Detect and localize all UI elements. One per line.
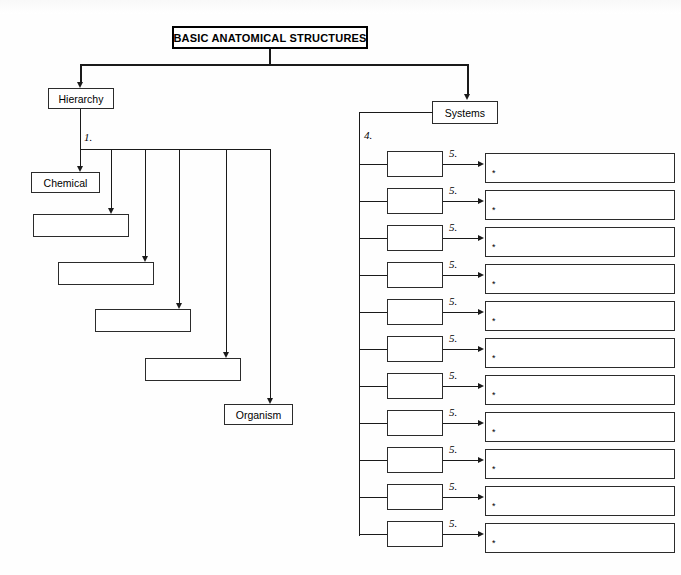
step-label-4: 4. xyxy=(364,129,372,141)
hierarchy-item-5[interactable] xyxy=(145,358,241,381)
hierarchy-connector-3 xyxy=(145,149,146,257)
systems-row-stub-5 xyxy=(359,312,387,313)
system-box-8[interactable] xyxy=(387,410,443,436)
hierarchy-stem xyxy=(80,109,81,149)
organ-box-6[interactable]: * xyxy=(485,338,675,368)
organ-bullet-6: * xyxy=(492,354,496,363)
organ-bullet-7: * xyxy=(492,391,496,400)
system-box-5[interactable] xyxy=(387,299,443,325)
systems-drop-line xyxy=(467,64,469,95)
organ-arrowhead-10 xyxy=(478,494,484,500)
hierarchy-item-3[interactable] xyxy=(58,262,154,285)
organ-connector-6 xyxy=(443,349,479,350)
systems-row-stub-3 xyxy=(359,238,387,239)
system-box-10[interactable] xyxy=(387,484,443,510)
step-label-5-row-9: 5. xyxy=(449,443,457,455)
organ-box-8[interactable]: * xyxy=(485,412,675,442)
hierarchy-item-4[interactable] xyxy=(95,309,191,332)
hierarchy-connector-6 xyxy=(270,149,271,399)
organ-arrowhead-8 xyxy=(478,420,484,426)
systems-spine-top xyxy=(359,112,433,113)
step-label-1: 1. xyxy=(84,131,92,143)
hierarchy-item-6: Organism xyxy=(224,404,293,425)
organ-bullet-3: * xyxy=(492,243,496,252)
system-box-7[interactable] xyxy=(387,373,443,399)
systems-label: Systems xyxy=(445,107,485,119)
organ-box-5[interactable]: * xyxy=(485,301,675,331)
hierarchy-connector-2 xyxy=(111,149,112,209)
organ-connector-3 xyxy=(443,238,479,239)
system-box-9[interactable] xyxy=(387,447,443,473)
systems-row-stub-11 xyxy=(359,534,387,535)
organ-box-2[interactable]: * xyxy=(485,190,675,220)
organ-connector-1 xyxy=(443,164,479,165)
organ-connector-9 xyxy=(443,460,479,461)
step-label-5-row-4: 5. xyxy=(449,258,457,270)
step-label-5-row-11: 5. xyxy=(449,517,457,529)
system-box-11[interactable] xyxy=(387,521,443,547)
organ-bullet-1: * xyxy=(492,169,496,178)
organ-bullet-8: * xyxy=(492,428,496,437)
systems-row-stub-8 xyxy=(359,423,387,424)
organ-box-1[interactable]: * xyxy=(485,153,675,183)
systems-row-stub-9 xyxy=(359,460,387,461)
hierarchy-label: Hierarchy xyxy=(59,93,104,105)
systems-arrowhead xyxy=(464,94,470,100)
organ-arrowhead-7 xyxy=(478,383,484,389)
hierarchy-item-2[interactable] xyxy=(33,214,129,237)
hierarchy-box: Hierarchy xyxy=(48,88,114,109)
title-stem xyxy=(269,49,271,65)
step-label-5-row-8: 5. xyxy=(449,406,457,418)
systems-row-stub-7 xyxy=(359,386,387,387)
organ-arrowhead-9 xyxy=(478,457,484,463)
step-label-5-row-2: 5. xyxy=(449,184,457,196)
organ-bullet-4: * xyxy=(492,280,496,289)
organ-box-11[interactable]: * xyxy=(485,523,675,553)
system-box-3[interactable] xyxy=(387,225,443,251)
organ-box-10[interactable]: * xyxy=(485,486,675,516)
systems-box: Systems xyxy=(432,101,498,124)
step-label-5-row-10: 5. xyxy=(449,480,457,492)
title-box: BASIC ANATOMICAL STRUCTURES xyxy=(172,26,368,49)
organ-connector-4 xyxy=(443,275,479,276)
system-box-4[interactable] xyxy=(387,262,443,288)
system-box-2[interactable] xyxy=(387,188,443,214)
top-distribution-bar xyxy=(80,64,468,66)
organ-connector-10 xyxy=(443,497,479,498)
hierarchy-item-1-label: Chemical xyxy=(44,177,88,189)
organ-box-4[interactable]: * xyxy=(485,264,675,294)
organ-box-3[interactable]: * xyxy=(485,227,675,257)
organ-bullet-2: * xyxy=(492,206,496,215)
organ-arrowhead-3 xyxy=(478,235,484,241)
organ-arrowhead-4 xyxy=(478,272,484,278)
step-label-5-row-7: 5. xyxy=(449,369,457,381)
organ-connector-7 xyxy=(443,386,479,387)
organ-bullet-5: * xyxy=(492,317,496,326)
hierarchy-level-bus xyxy=(80,149,271,150)
systems-spine xyxy=(359,112,360,536)
systems-row-stub-2 xyxy=(359,201,387,202)
title-label: BASIC ANATOMICAL STRUCTURES xyxy=(173,32,366,44)
organ-arrowhead-5 xyxy=(478,309,484,315)
organ-box-9[interactable]: * xyxy=(485,449,675,479)
hierarchy-connector-5 xyxy=(226,149,227,353)
step-label-5-row-1: 5. xyxy=(449,147,457,159)
organ-connector-5 xyxy=(443,312,479,313)
organ-connector-8 xyxy=(443,423,479,424)
worksheet-diagram: BASIC ANATOMICAL STRUCTURES Hierarchy 1.… xyxy=(0,0,681,575)
organ-arrowhead-1 xyxy=(478,161,484,167)
organ-arrowhead-2 xyxy=(478,198,484,204)
hierarchy-connector-4 xyxy=(179,149,180,304)
hierarchy-connector-1 xyxy=(80,149,81,167)
system-box-6[interactable] xyxy=(387,336,443,362)
scan-artifact-strip xyxy=(0,0,681,14)
organ-bullet-10: * xyxy=(492,502,496,511)
organ-box-7[interactable]: * xyxy=(485,375,675,405)
organ-arrowhead-11 xyxy=(478,531,484,537)
hierarchy-item-1: Chemical xyxy=(31,172,100,193)
organ-bullet-9: * xyxy=(492,465,496,474)
hierarchy-item-6-label: Organism xyxy=(236,409,282,421)
hierarchy-drop-line xyxy=(80,64,82,83)
systems-row-stub-4 xyxy=(359,275,387,276)
system-box-1[interactable] xyxy=(387,151,443,177)
